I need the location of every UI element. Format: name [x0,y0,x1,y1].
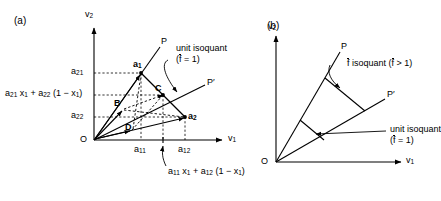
panel-b-ray-p-prime [276,99,385,162]
panel-a-xtick-a12: a12 [178,145,190,155]
panel-b-annotation-unit-isoquant-value: (f = 1) [390,136,414,145]
panel-a-point-a2 [183,115,187,119]
panel-a-annotation-unit-isoquant: unit isoquant [176,44,227,53]
panel-b-x-axis-label: v1 [406,156,414,166]
panel-a-dashed-a1-d [133,74,141,129]
panel-a-origin-label: O [80,135,87,144]
panel-a-point-b-label: B [114,99,121,108]
panel-b-isoquant-fbar [325,78,365,111]
panel-a-y-axis-label: v2 [85,10,93,20]
panel-b-annotation-unit-isoquant: unit isoquant [390,125,441,134]
panel-a-ray-p-prime-label: P′ [207,78,215,87]
panel-a-point-a1-label: a1 [133,60,142,70]
panel-a-point-c [161,93,165,97]
panel-a-point-d-label: D [125,123,132,132]
panel-a-point-a2-label: a2 [188,112,197,122]
panel-a-point-c-label: C [155,84,162,93]
panel-b-ray-p [276,52,340,162]
panel-a-dashed-b-c [124,95,163,109]
panel-a-xtick-a11: a11 [134,145,146,155]
panel-a-ray-p-label: P [161,37,167,46]
panel-a-tag: (a) [14,16,26,27]
panel-a-x-axis-label: v1 [228,134,236,144]
panel-a-dashed-b-a2 [124,110,184,117]
panel-b-annotation-fbar-isoquant: f isoquant (f > 1) [347,59,412,68]
panel-a-leader-x-combo [162,146,166,166]
panel-a-annotation-unit-isoquant-value: (f = 1) [176,55,200,64]
panel-b-origin-label: O [261,157,268,166]
panel-a-point-a1 [139,71,143,75]
panel-b-graphics [276,36,401,162]
panel-a-ytick-a21: a21 [71,67,83,77]
panel-b-ray-p-label: P [341,42,347,51]
panel-a-xtick-a11x1-combo: a11 x1 + a12 (1 − x1) [168,167,245,177]
panel-a-isoquant-c-a2 [163,95,185,117]
panel-b-y-axis-label: v2 [268,22,276,32]
panel-a-ytick-a21x1-combo: a21 x1 + a22 (1 − x1) [5,89,82,99]
panel-b-isoquant-unit [300,120,324,140]
panel-b-ray-p-prime-label: P′ [387,90,395,99]
panel-a-leader-unit-isoquant [164,60,177,92]
panel-a-vector-ob [95,111,122,139]
panel-a-ytick-a22: a22 [71,111,83,121]
